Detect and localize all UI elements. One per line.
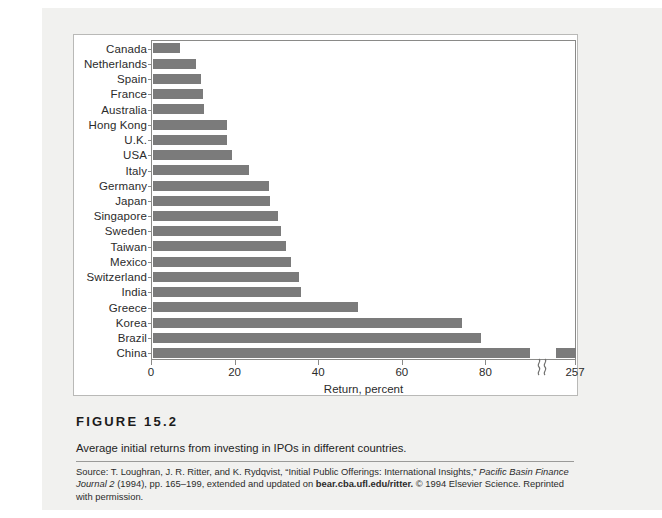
bar bbox=[153, 59, 196, 69]
bar bbox=[153, 226, 281, 236]
bar-category-label: Germany bbox=[99, 180, 147, 192]
bar-category-label: Hong Kong bbox=[89, 119, 147, 131]
bar bbox=[153, 272, 299, 282]
y-axis-tick bbox=[148, 323, 152, 324]
chart-frame: CanadaNetherlandsSpainFranceAustraliaHon… bbox=[73, 34, 578, 396]
x-axis-tick-label: 80 bbox=[479, 366, 492, 378]
y-axis-tick bbox=[148, 216, 152, 217]
bar-category-label: Netherlands bbox=[84, 58, 147, 70]
bar-row: Canada bbox=[152, 41, 575, 56]
y-axis-tick bbox=[148, 155, 152, 156]
bar-category-label: Taiwan bbox=[111, 241, 147, 253]
bar bbox=[153, 74, 201, 84]
bar-row: Greece bbox=[152, 300, 575, 315]
y-axis-tick bbox=[148, 292, 152, 293]
bar-category-label: Australia bbox=[101, 104, 147, 116]
axis-break-icon bbox=[533, 358, 553, 376]
y-axis-tick bbox=[148, 186, 152, 187]
bar-category-label: France bbox=[111, 88, 147, 100]
bar-row: Sweden bbox=[152, 224, 575, 239]
y-axis-tick bbox=[148, 308, 152, 309]
bar bbox=[153, 302, 358, 312]
y-axis-tick bbox=[148, 140, 152, 141]
y-axis-tick bbox=[148, 125, 152, 126]
source-mid: (1994), pp. 165–199, extended and update… bbox=[115, 478, 316, 489]
bar-row: Brazil bbox=[152, 331, 575, 346]
bar bbox=[153, 257, 291, 267]
source-lead: Source: T. Loughran, J. R. Ritter, and K… bbox=[76, 466, 479, 477]
bar-row: Netherlands bbox=[152, 56, 575, 71]
bar-row: India bbox=[152, 285, 575, 300]
y-axis-tick bbox=[148, 277, 152, 278]
x-axis-tick bbox=[318, 360, 319, 365]
bar-row: USA bbox=[152, 148, 575, 163]
bar-category-label: Italy bbox=[125, 165, 147, 177]
source-note: Source: T. Loughran, J. R. Ritter, and K… bbox=[76, 466, 576, 503]
x-axis-tick-label: 0 bbox=[148, 366, 154, 378]
bar-category-label: Singapore bbox=[94, 210, 147, 222]
bar-category-label: Greece bbox=[109, 302, 147, 314]
bar bbox=[153, 135, 227, 145]
bar-row: Korea bbox=[152, 315, 575, 330]
bar bbox=[153, 211, 278, 221]
bar-row: Australia bbox=[152, 102, 575, 117]
bar-segment-left bbox=[153, 348, 530, 358]
bar-category-label: Brazil bbox=[118, 332, 147, 344]
bar-row: France bbox=[152, 87, 575, 102]
bar-row: Switzerland bbox=[152, 270, 575, 285]
x-axis-tick bbox=[151, 360, 152, 365]
bar-row: Hong Kong bbox=[152, 117, 575, 132]
figure-description: Average initial returns from investing i… bbox=[76, 442, 576, 454]
bar-row: Singapore bbox=[152, 209, 575, 224]
y-axis-tick bbox=[148, 171, 152, 172]
bar-row: Spain bbox=[152, 71, 575, 86]
y-axis-tick bbox=[148, 94, 152, 95]
source-divider bbox=[76, 461, 574, 462]
bar bbox=[153, 104, 204, 114]
y-axis-tick bbox=[148, 49, 152, 50]
bar-category-label: Switzerland bbox=[86, 271, 147, 283]
x-axis-tick-label-final: 257 bbox=[565, 366, 584, 378]
bar-row: China bbox=[152, 346, 575, 361]
bar-category-label: China bbox=[116, 347, 147, 359]
bar-row: U.K. bbox=[152, 132, 575, 147]
y-axis-tick bbox=[148, 262, 152, 263]
bar bbox=[153, 120, 227, 130]
x-axis-tick-final bbox=[575, 360, 576, 365]
x-axis-tick bbox=[485, 360, 486, 365]
y-axis-tick bbox=[148, 247, 152, 248]
bar-category-label: Canada bbox=[106, 43, 147, 55]
y-axis-tick bbox=[148, 353, 152, 354]
y-axis-tick bbox=[148, 79, 152, 80]
bar bbox=[153, 89, 203, 99]
bar bbox=[153, 181, 269, 191]
bar-category-label: Japan bbox=[115, 195, 147, 207]
bar bbox=[153, 196, 270, 206]
plot-area: CanadaNetherlandsSpainFranceAustraliaHon… bbox=[151, 40, 576, 360]
bar-category-label: USA bbox=[123, 149, 147, 161]
x-axis-tick-label: 40 bbox=[312, 366, 325, 378]
bar-category-label: Sweden bbox=[105, 225, 147, 237]
bar bbox=[153, 318, 462, 328]
bar bbox=[153, 241, 286, 251]
bar-category-label: India bbox=[122, 286, 147, 298]
bar-row: Italy bbox=[152, 163, 575, 178]
bar-category-label: Korea bbox=[116, 317, 147, 329]
bar bbox=[153, 150, 232, 160]
source-url[interactable]: bear.cba.ufl.edu/ritter. bbox=[316, 478, 413, 489]
x-axis-tick bbox=[402, 360, 403, 365]
y-axis-tick bbox=[148, 338, 152, 339]
bar bbox=[153, 287, 301, 297]
bar-row: Japan bbox=[152, 193, 575, 208]
y-axis-tick bbox=[148, 64, 152, 65]
bar-category-label: Spain bbox=[117, 73, 147, 85]
y-axis-tick bbox=[148, 231, 152, 232]
figure-number-label: FIGURE 15.2 bbox=[76, 414, 178, 429]
bar-row: Taiwan bbox=[152, 239, 575, 254]
x-axis-title: Return, percent bbox=[151, 383, 576, 395]
bar bbox=[153, 333, 481, 343]
x-axis-tick bbox=[235, 360, 236, 365]
bar-category-label: Mexico bbox=[110, 256, 147, 268]
bar-row: Germany bbox=[152, 178, 575, 193]
bar bbox=[153, 43, 180, 53]
